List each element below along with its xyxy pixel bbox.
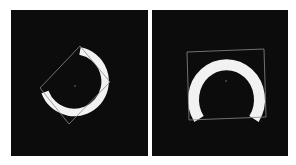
right-center-marker [225,80,227,82]
left-center-marker [74,85,76,87]
left-ring-shape [45,51,105,112]
figure-overlay [0,0,296,165]
right-ring-shape [194,65,260,119]
